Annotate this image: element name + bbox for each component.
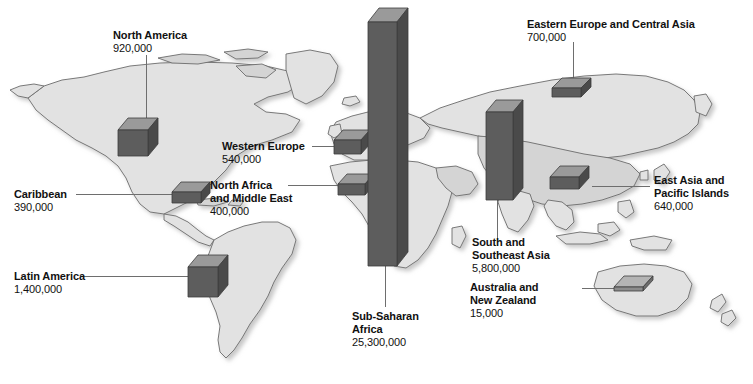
region-value: 920,000 [113, 42, 187, 55]
bar-sub-saharan-africa [368, 8, 412, 270]
leader-line-sub-saharan-africa [385, 265, 386, 307]
bar-caribbean [172, 182, 214, 210]
label-caribbean: Caribbean 390,000 [14, 188, 67, 214]
region-value: 1,400,000 [14, 283, 85, 296]
landmass-kamchatka [694, 94, 712, 116]
label-east-asia-pacific-islands: East Asia and Pacific Islands 640,000 [654, 174, 729, 213]
region-name-line2: and Middle East [210, 192, 292, 205]
leader-line-east-asia [592, 186, 650, 187]
landmass-new-zealand-south [721, 310, 736, 326]
region-name-line2: New Zealand [470, 294, 538, 307]
label-australia-new-zealand: Australia and New Zealand 15,000 [470, 281, 538, 320]
region-name: Australia and [470, 281, 538, 294]
landmass-new-zealand [710, 294, 726, 312]
landmass-borneo [598, 222, 620, 236]
landmass-madagascar [452, 226, 466, 248]
bar-eastern-europe-central-asia [552, 78, 596, 104]
label-eastern-europe-central-asia: Eastern Europe and Central Asia 700,000 [527, 18, 695, 44]
leader-line-western-europe [312, 146, 336, 147]
bar-south-southeast-asia [486, 100, 526, 206]
region-name: Sub-Saharan [352, 310, 419, 323]
landmass-greenland [286, 50, 338, 104]
region-name: South and [472, 236, 550, 249]
leader-line-latin-america [80, 276, 188, 277]
region-value: 640,000 [654, 200, 729, 213]
region-name: North Africa [210, 179, 292, 192]
region-name: Caribbean [14, 188, 67, 201]
leader-line-north-africa [288, 185, 340, 186]
label-north-africa-middle-east: North Africa and Middle East 400,000 [210, 179, 292, 218]
region-name: North America [113, 29, 187, 42]
bar-east-asia-pacific-islands [550, 166, 594, 196]
landmass-philippines [618, 200, 634, 218]
label-south-southeast-asia: South and Southeast Asia 5,800,000 [472, 236, 550, 275]
landmass-iceland [342, 96, 360, 106]
region-value: 400,000 [210, 205, 292, 218]
landmass-indonesia [556, 232, 608, 244]
label-western-europe: Western Europe 540,000 [222, 140, 305, 166]
region-name-line2: Pacific Islands [654, 187, 729, 200]
landmass-korea [640, 170, 648, 180]
region-value: 25,300,000 [352, 336, 419, 349]
region-value: 15,000 [470, 307, 538, 320]
landmass-arctic-islands-2 [224, 49, 268, 59]
leader-line-north-america [146, 55, 147, 125]
region-name: Western Europe [222, 140, 305, 153]
label-latin-america: Latin America 1,400,000 [14, 270, 85, 296]
region-value: 5,800,000 [472, 262, 550, 275]
leader-line-caribbean [76, 194, 172, 195]
label-north-america: North America 920,000 [113, 29, 187, 55]
region-value: 390,000 [14, 201, 67, 214]
bar-australia-new-zealand [614, 276, 658, 300]
region-name-line2: Southeast Asia [472, 249, 550, 262]
label-sub-saharan-africa: Sub-Saharan Africa 25,300,000 [352, 310, 419, 349]
landmass-new-guinea [630, 236, 672, 250]
region-name-line2: Africa [352, 323, 419, 336]
region-name: East Asia and [654, 174, 729, 187]
leader-line-south-southeast-asia [497, 200, 498, 240]
bar-north-america [118, 118, 164, 166]
bar-latin-america [188, 255, 234, 307]
infographic-root: North America 920,000 Caribbean 390,000 … [0, 0, 753, 384]
region-name: Latin America [14, 270, 85, 283]
region-name: Eastern Europe and Central Asia [527, 18, 695, 31]
landmass-central-america [164, 214, 214, 246]
region-value: 700,000 [527, 31, 695, 44]
region-value: 540,000 [222, 153, 305, 166]
